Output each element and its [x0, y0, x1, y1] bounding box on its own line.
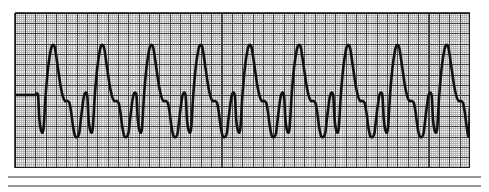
ecg-canvas [0, 0, 489, 192]
ecg-strip-container [0, 0, 489, 192]
